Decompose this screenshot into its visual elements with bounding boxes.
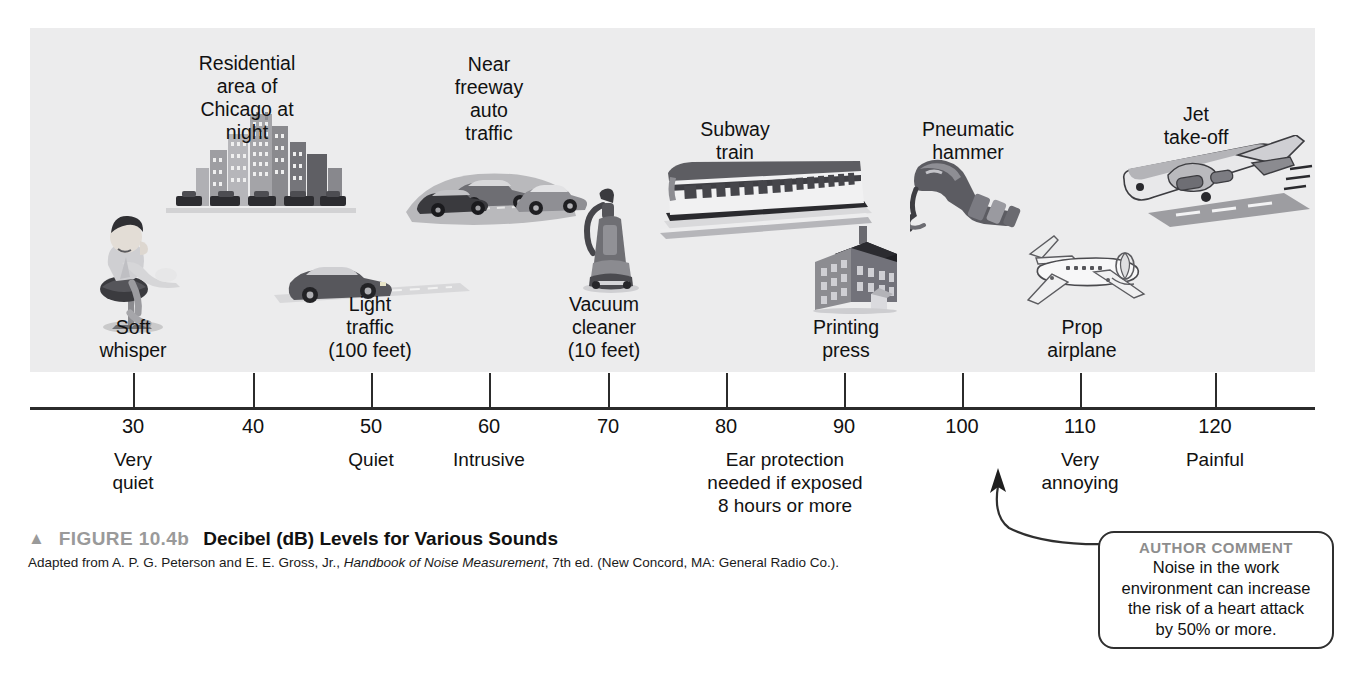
zone-intrusive-line-1: Intrusive bbox=[369, 448, 609, 471]
tick-label-60: 60 bbox=[449, 415, 529, 438]
figure-caption: ▲ FIGURE 10.4b Decibel (dB) Levels for V… bbox=[28, 528, 1028, 570]
tick-label-120: 120 bbox=[1175, 415, 1255, 438]
decibel-scale: 30405060708090100110120 VeryquietQuietIn… bbox=[0, 0, 1361, 420]
author-comment-line-1: Noise in the work bbox=[1108, 557, 1324, 578]
tick-label-80: 80 bbox=[686, 415, 766, 438]
zone-very-quiet-line-2: quiet bbox=[13, 471, 253, 494]
zone-ear-protection-line-1: Ear protection bbox=[665, 448, 905, 471]
author-comment-callout: AUTHOR COMMENT Noise in the work environ… bbox=[1098, 531, 1334, 649]
decibel-figure: SoftwhisperResidentialarea ofChicago atn… bbox=[0, 0, 1361, 679]
zone-very-annoying-line-2: annoying bbox=[960, 471, 1200, 494]
zone-ear-protection: Ear protectionneeded if exposed8 hours o… bbox=[665, 448, 905, 517]
source-suffix: , 7th ed. (New Concord, MA: General Radi… bbox=[545, 555, 839, 570]
axis-tick-110 bbox=[1080, 373, 1082, 407]
zone-painful-line-1: Painful bbox=[1095, 448, 1335, 471]
figure-number: FIGURE 10.4b bbox=[59, 528, 189, 550]
tick-label-40: 40 bbox=[213, 415, 293, 438]
author-comment-line-2: environment can increase bbox=[1108, 578, 1324, 599]
triangle-marker-icon: ▲ bbox=[28, 530, 45, 547]
tick-label-110: 110 bbox=[1040, 415, 1120, 438]
tick-label-70: 70 bbox=[568, 415, 648, 438]
tick-label-100: 100 bbox=[922, 415, 1002, 438]
tick-label-90: 90 bbox=[804, 415, 884, 438]
source-prefix: Adapted from A. P. G. Peterson and E. E.… bbox=[28, 555, 344, 570]
source-book-title: Handbook of Noise Measurement bbox=[344, 555, 545, 570]
author-comment-line-3: the risk of a heart attack bbox=[1108, 598, 1324, 619]
axis-tick-30 bbox=[133, 373, 135, 407]
zone-intrusive: Intrusive bbox=[369, 448, 609, 471]
author-comment-body: Noise in the work environment can increa… bbox=[1100, 556, 1332, 639]
zone-painful: Painful bbox=[1095, 448, 1335, 471]
author-comment-line-4: by 50% or more. bbox=[1108, 619, 1324, 640]
axis-tick-50 bbox=[371, 373, 373, 407]
axis-tick-40 bbox=[253, 373, 255, 407]
zone-ear-protection-line-3: 8 hours or more bbox=[665, 494, 905, 517]
axis-tick-90 bbox=[844, 373, 846, 407]
zone-ear-protection-line-2: needed if exposed bbox=[665, 471, 905, 494]
tick-label-30: 30 bbox=[93, 415, 173, 438]
figure-source: Adapted from A. P. G. Peterson and E. E.… bbox=[28, 555, 1028, 570]
zone-very-quiet-line-1: Very bbox=[13, 448, 253, 471]
zone-very-quiet: Veryquiet bbox=[13, 448, 253, 494]
axis-line bbox=[30, 407, 1315, 410]
axis-tick-100 bbox=[962, 373, 964, 407]
axis-tick-70 bbox=[608, 373, 610, 407]
figure-title: Decibel (dB) Levels for Various Sounds bbox=[203, 528, 558, 550]
axis-tick-60 bbox=[489, 373, 491, 407]
axis-tick-120 bbox=[1215, 373, 1217, 407]
tick-label-50: 50 bbox=[331, 415, 411, 438]
axis-tick-80 bbox=[726, 373, 728, 407]
author-comment-heading: AUTHOR COMMENT bbox=[1100, 539, 1332, 556]
